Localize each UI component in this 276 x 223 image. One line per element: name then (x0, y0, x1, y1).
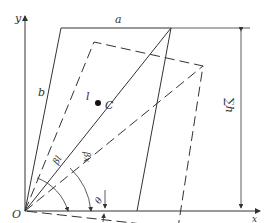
label-l: l (86, 90, 90, 103)
label-O: O (12, 208, 21, 221)
label-y: y (14, 12, 22, 25)
label-sum-h: ∑h (223, 98, 236, 113)
label-C: C (105, 99, 114, 112)
beta-l-arc (37, 178, 68, 211)
label-b: b (38, 86, 45, 99)
diagram-canvas: y a b l C O x βl βx θ ∑h (0, 0, 276, 223)
centroid-point (95, 100, 101, 106)
label-x: x (252, 214, 257, 223)
theta-arrow-bottom (103, 214, 104, 222)
beta-x-arc (70, 168, 91, 211)
label-beta-x: βx (82, 151, 92, 162)
dashed-rectangle (25, 42, 203, 223)
geometry-diagram: y a b l C O x βl βx θ ∑h (0, 0, 276, 223)
label-theta: θ (93, 195, 105, 205)
dashed-diagonal (25, 66, 203, 211)
label-a: a (115, 13, 122, 26)
solid-diagonal (25, 28, 171, 211)
